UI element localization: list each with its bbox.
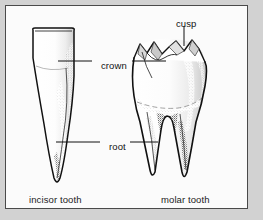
- annotation-label-crown: crown: [101, 60, 127, 71]
- caption-incisor-tooth: incisor tooth: [29, 194, 82, 205]
- tooth-illustration: [6, 6, 247, 208]
- figure-root: cusp crown root incisor tooth molar toot…: [0, 0, 263, 220]
- figure-frame: cusp crown root incisor tooth molar toot…: [5, 5, 248, 209]
- incisor-tooth-drawing: [32, 28, 76, 182]
- annotation-label-root: root: [109, 141, 126, 152]
- molar-tooth-drawing: [133, 39, 207, 177]
- caption-molar-tooth: molar tooth: [161, 194, 210, 205]
- annotation-label-cusp: cusp: [176, 18, 196, 29]
